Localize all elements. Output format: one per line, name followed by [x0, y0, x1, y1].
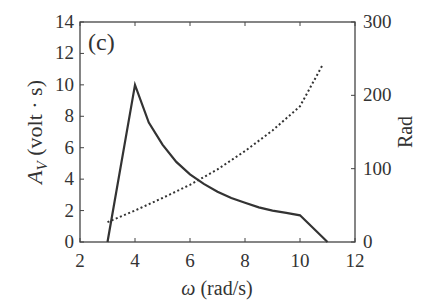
x-axis-label: ω (rad/s)	[181, 277, 252, 300]
y-left-tick-label: 14	[55, 11, 75, 32]
series-av	[108, 85, 328, 242]
x-tick-label: 4	[130, 250, 140, 271]
x-tick-label: 10	[291, 250, 310, 271]
y-left-tick-label: 4	[65, 168, 75, 189]
data-series	[108, 66, 328, 242]
y-left-tick-label: 8	[65, 105, 75, 126]
y-axis-left-label: AV (volt · s)	[22, 80, 50, 186]
x-tick-label: 6	[185, 250, 195, 271]
y-left-tick-label: 12	[55, 42, 74, 63]
y-left-tick-label: 10	[55, 74, 74, 95]
x-tick-label: 8	[240, 250, 250, 271]
y-left-tick-label: 0	[65, 231, 75, 252]
x-tick-label: 12	[346, 250, 365, 271]
y-right-tick-label: 300	[363, 11, 392, 32]
plot-frame	[80, 22, 355, 242]
y-axis-right-label: Rad	[394, 116, 416, 148]
series-rad	[108, 66, 323, 222]
x-tick-label: 2	[75, 250, 85, 271]
y-right-tick-label: 0	[363, 231, 373, 252]
y-right-tick-label: 200	[363, 84, 392, 105]
y-left-tick-label: 2	[65, 200, 75, 221]
panel-label: (c)	[88, 29, 115, 55]
dual-axis-line-chart: 24681012024681012140100200300 (c) ω (rad…	[0, 0, 434, 308]
y-left-tick-label: 6	[65, 137, 75, 158]
y-right-tick-label: 100	[363, 158, 392, 179]
